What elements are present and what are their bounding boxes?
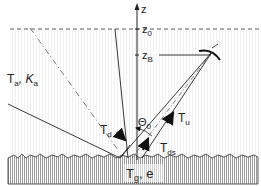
ground-label: Tg, e [126, 166, 153, 183]
z-axis-arrow-icon [135, 3, 140, 10]
atmosphere-region [10, 29, 261, 157]
z-axis-label: z [141, 3, 147, 15]
diagram-canvas: z z0 zB Θ0 Ta, Ka Tu Td Tds Tg, e [0, 0, 261, 186]
